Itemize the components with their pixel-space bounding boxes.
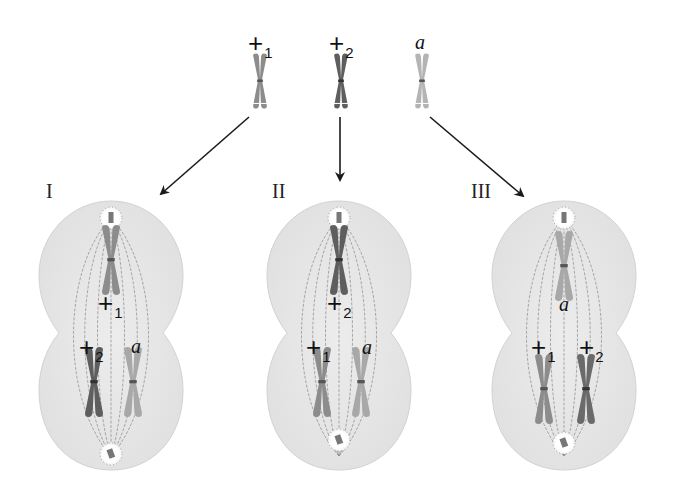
centriole-top-icon [562, 212, 567, 223]
cell-I [39, 201, 183, 470]
cell-I-upper-label: +1 [98, 290, 123, 320]
chromosome-plus2-icon [333, 53, 348, 108]
cell-label-II: II [272, 181, 285, 201]
chromosome-plus1-icon [252, 53, 267, 108]
arrows [161, 117, 523, 196]
label-top-a: a [415, 32, 425, 52]
diagram-canvas [0, 0, 676, 493]
cell-III-lower-right-label: +2 [579, 334, 604, 364]
cell-II-lower-right-label: a [362, 337, 372, 357]
segregation-diagram: +1 +2 a I II III +1 +2 a +2 +1 a a +1 +2 [0, 0, 676, 493]
top-chromosomes [252, 53, 429, 108]
centriole-top-icon [337, 212, 342, 223]
label-top-plus2: +2 [329, 30, 354, 60]
cell-II-upper-label: +2 [327, 290, 352, 320]
cell-label-III: III [471, 181, 491, 201]
arrow-to-cell-I [161, 117, 249, 194]
cell-label-I: I [46, 181, 53, 201]
cell-II-lower-left-label: +1 [306, 334, 331, 364]
cell-III-upper-label: a [559, 294, 569, 314]
label-top-plus1: +1 [248, 30, 273, 60]
cell-III [492, 201, 636, 470]
centriole-top-icon [109, 212, 114, 223]
cell-III-lower-left-label: +1 [531, 334, 556, 364]
chromosome-a-icon [414, 53, 429, 108]
cell-I-lower-left-label: +2 [79, 334, 104, 364]
cell-I-lower-right-label: a [131, 336, 141, 356]
cell-II [267, 201, 411, 470]
